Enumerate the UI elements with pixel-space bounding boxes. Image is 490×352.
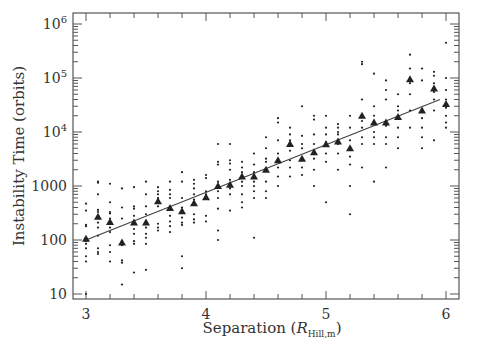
run-point xyxy=(289,175,291,177)
y-tick-label: 100 xyxy=(40,232,67,248)
run-point xyxy=(181,216,183,218)
run-point xyxy=(109,183,111,185)
median-triangle xyxy=(430,84,438,91)
run-point xyxy=(421,67,423,69)
run-point xyxy=(229,162,231,164)
run-point xyxy=(193,222,195,224)
x-tick-label: 3 xyxy=(82,306,91,322)
run-point xyxy=(205,220,207,222)
run-point xyxy=(361,61,363,63)
run-point xyxy=(169,181,171,183)
run-point xyxy=(325,115,327,117)
run-point xyxy=(421,136,423,138)
run-point xyxy=(169,197,171,199)
run-point xyxy=(289,127,291,129)
run-point xyxy=(121,187,123,189)
run-point xyxy=(289,150,291,152)
run-point xyxy=(121,262,123,264)
run-point xyxy=(301,174,303,176)
run-point xyxy=(349,156,351,158)
run-point xyxy=(133,205,135,207)
run-point xyxy=(85,247,87,249)
run-point xyxy=(97,226,99,228)
run-point xyxy=(253,163,255,165)
median-triangle xyxy=(406,75,414,82)
median-triangle xyxy=(358,112,366,119)
run-point xyxy=(337,127,339,129)
run-point xyxy=(133,240,135,242)
run-point xyxy=(409,82,411,84)
run-point xyxy=(337,131,339,133)
run-point xyxy=(157,190,159,192)
run-point xyxy=(217,197,219,199)
run-point xyxy=(157,229,159,231)
run-point xyxy=(301,143,303,145)
run-point xyxy=(313,169,315,171)
run-point xyxy=(145,269,147,271)
run-point xyxy=(313,158,315,160)
run-point xyxy=(181,222,183,224)
run-point xyxy=(385,79,387,81)
run-point xyxy=(169,231,171,233)
run-point xyxy=(397,127,399,129)
run-point xyxy=(265,136,267,138)
run-point xyxy=(313,143,315,145)
median-triangle xyxy=(442,100,450,107)
median-triangle xyxy=(142,219,150,226)
run-point xyxy=(85,203,87,205)
run-point xyxy=(325,161,327,163)
run-point xyxy=(277,166,279,168)
run-point xyxy=(433,98,435,100)
run-point xyxy=(361,143,363,145)
run-point xyxy=(253,185,255,187)
run-point xyxy=(121,283,123,285)
run-point xyxy=(145,193,147,195)
run-point xyxy=(445,42,447,44)
run-point xyxy=(85,210,87,212)
run-point xyxy=(433,71,435,73)
run-point xyxy=(361,127,363,129)
run-point xyxy=(145,205,147,207)
run-point xyxy=(421,79,423,81)
run-point xyxy=(253,190,255,192)
run-point xyxy=(409,127,411,129)
run-point xyxy=(169,189,171,191)
run-point xyxy=(445,77,447,79)
run-point xyxy=(97,247,99,249)
y-tick-label: 106 xyxy=(43,14,67,32)
run-point xyxy=(421,127,423,129)
run-point xyxy=(97,193,99,195)
run-point xyxy=(229,169,231,171)
run-point xyxy=(385,136,387,138)
run-point xyxy=(253,152,255,154)
run-point xyxy=(397,136,399,138)
run-point xyxy=(361,63,363,65)
run-point xyxy=(109,251,111,253)
y-tick-label: 10 xyxy=(49,286,67,302)
run-point xyxy=(217,163,219,165)
run-point xyxy=(85,243,87,245)
run-point xyxy=(157,186,159,188)
run-point xyxy=(109,260,111,262)
run-point xyxy=(241,185,243,187)
run-point xyxy=(349,115,351,117)
run-point xyxy=(373,115,375,117)
run-point xyxy=(145,181,147,183)
run-point xyxy=(301,166,303,168)
run-point xyxy=(397,105,399,107)
median-triangle xyxy=(394,113,402,120)
run-point xyxy=(241,161,243,163)
run-point xyxy=(325,201,327,203)
run-point xyxy=(313,185,315,187)
median-triangle xyxy=(202,193,210,200)
run-point xyxy=(193,179,195,181)
run-point xyxy=(205,177,207,179)
run-point xyxy=(325,127,327,129)
run-point xyxy=(349,213,351,215)
run-point xyxy=(193,213,195,215)
run-point xyxy=(181,255,183,257)
run-point xyxy=(205,215,207,217)
run-point xyxy=(133,271,135,273)
run-point xyxy=(121,259,123,261)
run-point xyxy=(253,197,255,199)
